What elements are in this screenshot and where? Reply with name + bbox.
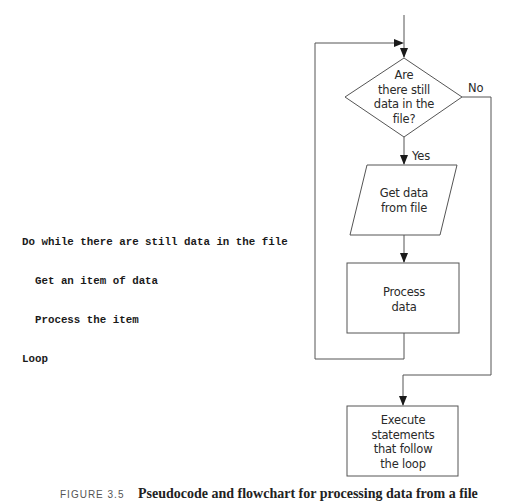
input-step-label-line: Get data <box>358 186 450 201</box>
figure-caption: FIGURE 3.5 Pseudocode and flowchart for … <box>60 486 478 502</box>
yes-label: Yes <box>412 149 430 163</box>
exit-step-label-line: statements <box>352 428 454 443</box>
exit-step-label-line: Execute <box>352 413 454 428</box>
exit-step-label-line: that follow <box>352 442 454 457</box>
entry-arrowhead <box>400 48 408 58</box>
process-arrowhead <box>400 253 408 263</box>
decision-label: Are there still data in the file? <box>358 68 450 126</box>
exit-arrowhead <box>399 396 407 406</box>
exit-step-label: Execute statements that follow the loop <box>352 413 454 471</box>
exit-step-label-line: the loop <box>352 457 454 472</box>
decision-label-line: data in the <box>358 97 450 112</box>
decision-label-line: file? <box>358 112 450 127</box>
process-step-label-line: Process <box>358 285 450 300</box>
decision-label-line: there still <box>358 83 450 98</box>
input-step-label-line: from file <box>358 201 450 216</box>
decision-label-line: Are <box>358 68 450 83</box>
no-label: No <box>468 81 483 95</box>
loop-back-arrowhead <box>394 39 404 47</box>
figure-number: FIGURE 3.5 <box>60 489 124 500</box>
process-step-label-line: data <box>358 300 450 315</box>
no-connector <box>403 97 491 405</box>
process-step-label: Process data <box>358 285 450 314</box>
input-step-label: Get data from file <box>358 186 450 215</box>
caption-text: Pseudocode and flowchart for processing … <box>138 486 478 501</box>
yes-arrowhead <box>400 155 408 165</box>
